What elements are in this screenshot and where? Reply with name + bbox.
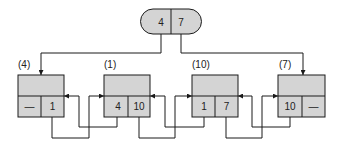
node-prev-value: — [25,101,35,112]
node-next-value: — [309,101,319,112]
list-header: 4 7 [141,9,202,34]
node-prev-value: 1 [201,101,207,112]
node-label: (10) [192,59,210,70]
node-label: (4) [18,59,30,70]
node-next-value: 7 [224,101,230,112]
link-arrows [52,96,290,138]
node-next-value: 1 [50,101,56,112]
node-next-value: 10 [133,101,145,112]
node-label: (1) [104,59,116,70]
node-3: (10) 1 7 [192,59,238,117]
node-label: (7) [279,59,291,70]
node-2: (1) 4 10 [104,59,150,117]
header-pointers [41,34,303,75]
header-first-value: 4 [158,17,164,28]
header-last-value: 7 [178,17,184,28]
head-pointer-arrow [41,34,161,75]
doubly-linked-list-diagram: 4 7 (4) — 1 (1) 4 10 (10) 1 7 (7) [0,0,339,153]
node-prev-value: 4 [115,101,121,112]
node-4: (7) 10 — [278,59,325,117]
node-prev-value: 10 [284,101,296,112]
